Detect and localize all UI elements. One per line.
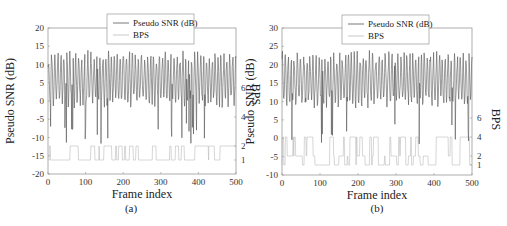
y-tick-label: -5: [271, 152, 279, 162]
x-tick-label: 400: [192, 177, 206, 187]
y-tick-label: -5: [37, 114, 45, 124]
y-right-tick-label: 1: [477, 160, 482, 170]
y-tick-label: -20: [32, 169, 44, 179]
panel-caption: (b): [371, 202, 384, 215]
y-tick-label: 0: [274, 133, 279, 143]
y-tick-label: 20: [35, 23, 45, 33]
x-tick-label: 300: [154, 177, 168, 187]
x-tick-label: 100: [79, 177, 93, 187]
legend-entry-snr: Pseudo SNR (dB): [368, 19, 433, 29]
y-tick-label: 10: [35, 60, 45, 70]
x-tick-label: 400: [427, 178, 441, 188]
y-tick-label: 5: [40, 78, 45, 88]
x-tick-label: 200: [351, 178, 365, 188]
y-tick-label: 5: [274, 115, 279, 125]
y-tick-label: 30: [269, 23, 279, 33]
y-tick-label: 0: [40, 96, 45, 106]
y-right-axis-label: BPS: [489, 109, 503, 130]
y-right-tick-label: 2: [477, 151, 482, 161]
x-axis-label: Frame index: [112, 187, 172, 201]
x-tick-label: 300: [389, 178, 403, 188]
x-tick-label: 500: [229, 177, 243, 187]
figure: 0100200300400500-20-15-10-5051015201246F…: [0, 0, 507, 226]
y-right-tick-label: 4: [477, 132, 482, 142]
y-tick-label: 20: [269, 60, 279, 70]
snr-line: [282, 50, 472, 143]
x-tick-label: 0: [280, 178, 285, 188]
x-tick-label: 100: [313, 178, 327, 188]
snr-line: [48, 50, 236, 143]
panel-a: 0100200300400500-20-15-10-5051015201246F…: [3, 14, 263, 215]
x-axis-label: Frame index: [347, 188, 407, 202]
x-tick-label: 500: [465, 178, 479, 188]
legend-entry-snr: Pseudo SNR (dB): [133, 18, 198, 28]
bps-line: [282, 137, 472, 165]
y-tick-label: 15: [269, 78, 279, 88]
x-tick-label: 200: [116, 177, 130, 187]
y-right-tick-label: 6: [477, 113, 482, 123]
legend-entry-bps: BPS: [133, 30, 149, 40]
y-axis-label: Pseudo SNR (dB): [3, 58, 17, 144]
y-tick-label: -15: [32, 151, 44, 161]
y-right-tick-label: 1: [241, 155, 246, 165]
x-tick-label: 0: [46, 177, 51, 187]
legend-entry-bps: BPS: [368, 31, 384, 41]
y-tick-label: 10: [269, 97, 279, 107]
y-tick-label: -10: [32, 133, 44, 143]
panel-caption: (a): [125, 202, 138, 215]
panel-b: 0100200300400500-10-50510152025301246Fra…: [243, 15, 503, 215]
y-tick-label: 25: [269, 41, 279, 51]
bps-line: [48, 146, 236, 160]
y-tick-label: 15: [35, 41, 45, 51]
y-tick-label: -10: [266, 170, 278, 180]
y-axis-label: Pseudo SNR (dB): [243, 58, 257, 144]
